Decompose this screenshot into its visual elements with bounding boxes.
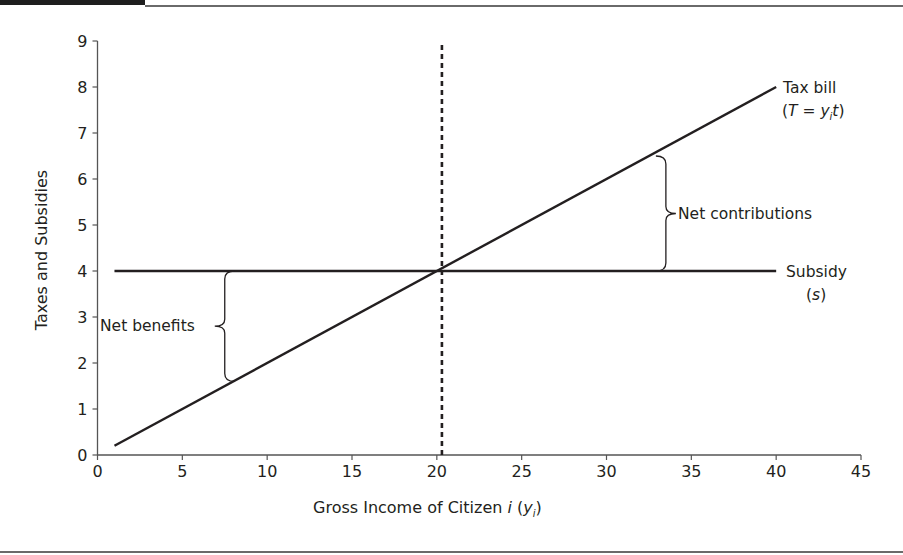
x-tick-label: 40: [766, 462, 786, 481]
tax-bill-formula: (T = yit): [782, 102, 844, 122]
y-tick-label: 0: [77, 446, 87, 465]
x-tick-label: 25: [511, 462, 531, 481]
subsidy-label: Subsidy: [786, 263, 847, 281]
net-benefits-label: Net benefits: [100, 317, 195, 335]
y-tick-label: 6: [77, 170, 87, 189]
tax-bill-label: Tax bill: [782, 79, 836, 97]
net-contributions-label: Net contributions: [678, 205, 812, 223]
x-axis-title: Gross Income of Citizen i (yi): [313, 498, 542, 519]
x-tick-label: 35: [681, 462, 701, 481]
net-contributions-brace: [656, 156, 676, 271]
x-tick-label: 15: [342, 462, 362, 481]
y-axis-title: Taxes and Subsidies: [32, 170, 51, 331]
y-tick-label: 9: [77, 32, 87, 51]
net-benefits-brace: [215, 271, 235, 381]
y-tick-label: 7: [77, 124, 87, 143]
y-tick-label: 4: [77, 262, 87, 281]
plot-lines: [114, 45, 776, 455]
y-tick-label: 5: [77, 216, 87, 235]
y-tick-label: 2: [77, 354, 87, 373]
x-tick-label: 30: [596, 462, 616, 481]
x-tick-label: 45: [851, 462, 871, 481]
y-tick-label: 3: [77, 308, 87, 327]
subsidy-symbol: (s): [806, 286, 826, 304]
x-tick-label: 20: [427, 462, 447, 481]
x-tick-label: 10: [257, 462, 277, 481]
y-tick-label: 8: [77, 78, 87, 97]
annotations: [215, 156, 676, 381]
y-tick-label: 1: [77, 400, 87, 419]
x-tick-label: 0: [92, 462, 102, 481]
chart: 0123456789051015202530354045 Tax bill (T…: [0, 0, 903, 555]
tax-bill-line: [114, 87, 776, 446]
x-tick-label: 5: [177, 462, 187, 481]
